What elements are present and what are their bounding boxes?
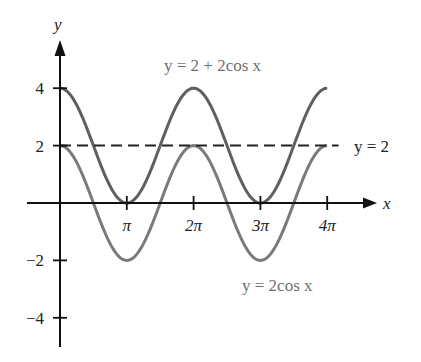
x-tick-label: π (123, 216, 132, 235)
x-tick-label: 3π (251, 216, 270, 235)
bottom-curve-label: y = 2cos x (242, 276, 313, 295)
dashed-line-label: y = 2 (354, 137, 389, 156)
chart: π2π3π4π42−2−4 x y y = 2 + 2cos x y = 2 y… (0, 0, 421, 362)
y-tick-label: 2 (36, 137, 45, 156)
top-curve-label: y = 2 + 2cos x (164, 56, 262, 75)
y-tick-label: 4 (36, 79, 45, 98)
y-axis-arrow-icon (55, 40, 66, 56)
x-tick-label: 2π (185, 216, 203, 235)
y-axis-label: y (52, 15, 62, 34)
axes (27, 40, 377, 347)
y-tick-label: −4 (26, 309, 45, 328)
x-tick-label: 4π (319, 216, 337, 235)
x-axis-arrow-icon (363, 198, 377, 209)
x-axis-label: x (382, 194, 391, 213)
y-tick-label: −2 (26, 251, 44, 270)
